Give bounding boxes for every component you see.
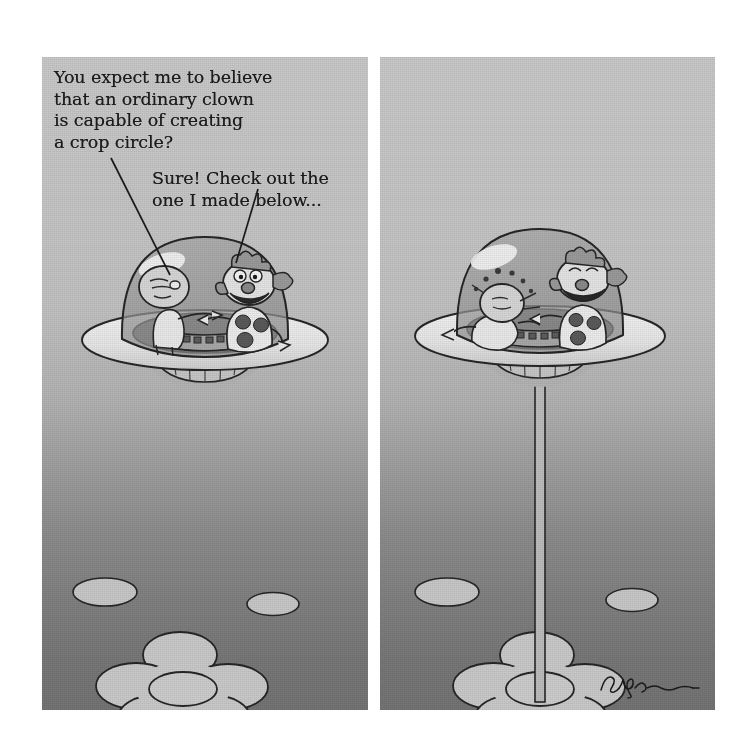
caption-alien-dialogue: You expect me to believe that an ordinar… [54, 67, 272, 153]
panel-right-artwork [380, 57, 715, 710]
small-crop-oval-right [247, 593, 299, 616]
small-crop-oval-right [606, 589, 658, 612]
flying-saucer [82, 237, 328, 390]
clown-nose [242, 283, 255, 294]
small-crop-oval-left [73, 578, 137, 606]
flower-crop-circle [73, 578, 299, 710]
comic-panel-left: You expect me to believe that an ordinar… [42, 57, 368, 710]
flying-saucer [415, 229, 665, 387]
flower-center [149, 672, 217, 706]
small-crop-oval-left [415, 578, 479, 606]
panel-left-artwork [42, 57, 368, 710]
comic-panel-right [380, 57, 715, 710]
caption-clown-dialogue: Sure! Check out the one I made below... [152, 168, 329, 211]
clown-nose [576, 280, 589, 291]
alien-head [480, 284, 524, 322]
tractor-beam [535, 357, 545, 702]
artist-signature [595, 668, 705, 702]
comic-page: You expect me to believe that an ordinar… [0, 0, 746, 742]
